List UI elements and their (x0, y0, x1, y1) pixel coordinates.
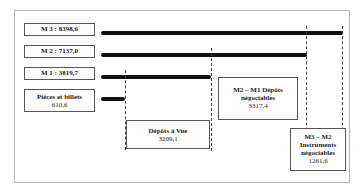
bar-m2 (101, 53, 307, 57)
bar-pieces-billets (101, 97, 125, 101)
m3-m2-value: 1261,6 (291, 157, 345, 165)
label-pieces-billets-value: 610,6 (25, 101, 94, 109)
label-m1: M 1 : 3819,7 (24, 67, 95, 80)
depots-vue-value: 3209,1 (127, 135, 209, 143)
label-pieces-billets: Pièces et billets 610,6 (24, 89, 95, 112)
label-m2: M 2 : 7137,0 (24, 45, 95, 58)
guide-m1 (211, 48, 212, 151)
box-m2-m1: M2 – M1 Dépôts négociables 3317,4 (218, 77, 298, 120)
bar-m1 (101, 75, 211, 79)
box-depots-vue: Dépôts à Vue 3209,1 (126, 120, 210, 149)
label-pieces-billets-title: Pièces et billets (25, 93, 94, 101)
m3-m2-line2: Instruments (291, 141, 345, 149)
label-m2-text: M 2 : 7137,0 (41, 47, 78, 55)
label-m3: M 3 : 8398,6 (24, 23, 95, 36)
m2-m1-line2: négociables (219, 94, 297, 102)
label-m3-text: M 3 : 8398,6 (41, 25, 78, 33)
box-m3-m2: M3 – M2 Instruments négociables 1261,6 (290, 128, 346, 171)
m3-m2-line3: négociables (291, 149, 345, 157)
m3-m2-line1: M3 – M2 (291, 133, 345, 141)
label-m1-text: M 1 : 3819,7 (41, 69, 78, 77)
depots-vue-title: Dépôts à Vue (127, 127, 209, 135)
m2-m1-line1: M2 – M1 Dépôts (219, 86, 297, 94)
m2-m1-value: 3317,4 (219, 102, 297, 110)
